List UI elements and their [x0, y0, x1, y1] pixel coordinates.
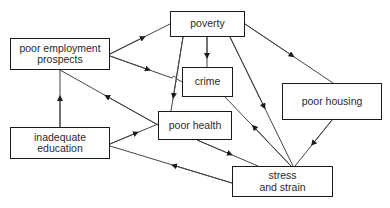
node-poor-housing: poor housing [282, 83, 382, 120]
node-label: stress [259, 170, 305, 182]
edge-health-to-stress [197, 140, 258, 166]
edge-pep-to-poverty [110, 24, 170, 54]
edge-poverty-to-housing [245, 24, 333, 83]
edge-health-to-pep [60, 70, 158, 125]
node-stress-and-strain: stress and strain [232, 166, 333, 197]
node-label: poverty [190, 18, 224, 30]
edge-housing-to-stress [295, 120, 332, 166]
node-label: prospects [19, 54, 100, 66]
node-poverty: poverty [170, 11, 245, 37]
edge-stress-to-education [110, 146, 232, 183]
node-label: poor health [169, 120, 222, 132]
node-inadequate-education: inadequate education [10, 127, 110, 159]
edge-pep-to-crime [110, 56, 182, 82]
node-label: and strain [259, 182, 305, 194]
node-crime: crime [182, 67, 233, 97]
node-label: crime [195, 76, 221, 88]
node-poor-employment-prospects: poor employment prospects [10, 38, 110, 70]
node-poor-health: poor health [158, 111, 232, 140]
node-label: education [34, 143, 86, 155]
node-label: poor housing [302, 96, 363, 108]
edge-education-to-health [110, 124, 158, 144]
